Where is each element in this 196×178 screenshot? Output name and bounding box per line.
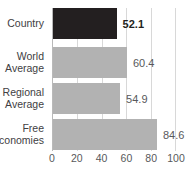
- bar-value-regional-average: 54.9: [126, 93, 147, 104]
- x-tick-label-80: 80: [145, 153, 157, 164]
- x-tick-label-20: 20: [71, 153, 83, 164]
- bar-row: 60.4: [52, 47, 176, 78]
- bar-value-world-average: 60.4: [133, 57, 154, 68]
- x-tick-label-40: 40: [96, 153, 108, 164]
- x-tick-label-60: 60: [121, 153, 133, 164]
- horizontal-bar-chart: 52.1 60.4 54.9 84.6 Country World Averag…: [0, 0, 196, 178]
- y-axis-line: [52, 8, 53, 151]
- x-tick-label-100: 100: [167, 153, 185, 164]
- category-label-country: Country: [7, 18, 44, 30]
- x-tick-label-0: 0: [49, 153, 55, 164]
- bar-row: 54.9: [52, 83, 176, 114]
- category-label-free-economies: Free Economies: [0, 123, 44, 146]
- bar-row: 84.6: [52, 119, 176, 150]
- bar-row: 52.1: [52, 8, 176, 39]
- category-label-regional-average: Regional Average: [3, 87, 44, 110]
- bar-free-economies[interactable]: [52, 119, 157, 150]
- x-axis-tick-labels: 0 20 40 60 80 100: [0, 153, 196, 173]
- plot-area: 52.1 60.4 54.9 84.6: [52, 8, 176, 151]
- category-label-world-average: World Average: [5, 51, 44, 74]
- bar-regional-average[interactable]: [52, 83, 120, 114]
- bar-world-average[interactable]: [52, 47, 127, 78]
- bar-country[interactable]: [52, 8, 117, 39]
- bar-value-free-economies: 84.6: [163, 129, 184, 140]
- bar-value-country: 52.1: [123, 18, 144, 29]
